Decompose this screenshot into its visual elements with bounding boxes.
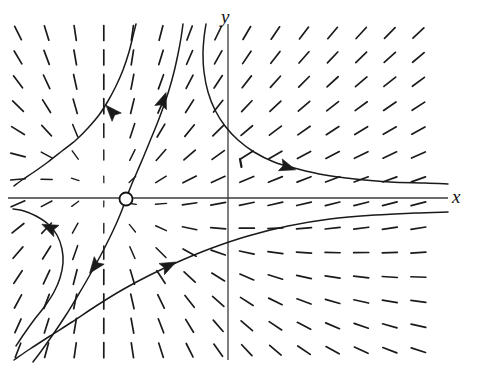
- field-segment: [43, 270, 49, 284]
- field-segment: [130, 247, 135, 259]
- field-segment: [155, 203, 166, 204]
- field-segment: [11, 201, 25, 207]
- field-segment: [186, 75, 193, 88]
- field-segment: [13, 101, 24, 111]
- field-segment: [269, 126, 281, 135]
- field-segment: [184, 150, 195, 160]
- trajectory-curve: [13, 209, 63, 346]
- field-segment: [411, 348, 425, 353]
- field-segment: [156, 149, 166, 160]
- field-segment: [42, 125, 52, 136]
- field-segment: [214, 344, 223, 356]
- field-segment: [187, 51, 193, 65]
- field-segment: [15, 319, 21, 333]
- field-segment: [242, 76, 251, 88]
- field-segment: [385, 28, 396, 39]
- field-segment: [187, 26, 192, 40]
- field-segment: [12, 127, 25, 135]
- field-segment: [213, 320, 223, 331]
- field-segment: [211, 250, 225, 255]
- arrowhead-shape: [159, 256, 179, 274]
- field-segment: [355, 127, 368, 135]
- field-segment: [270, 101, 281, 111]
- field-segment: [354, 276, 369, 278]
- field-segment: [185, 125, 195, 137]
- field-segment: [268, 177, 282, 183]
- field-segment: [270, 76, 280, 87]
- field-segment: [131, 294, 134, 309]
- field-segment: [299, 77, 310, 88]
- slope-field-group: [11, 26, 426, 358]
- field-segment: [269, 151, 282, 159]
- field-segment: [383, 348, 397, 353]
- field-segment: [326, 347, 339, 354]
- field-segment: [411, 324, 426, 327]
- field-segment: [242, 101, 252, 112]
- field-segment: [72, 201, 79, 206]
- field-segment: [383, 324, 397, 328]
- phase-portrait-canvas: [0, 0, 479, 380]
- field-segment: [243, 27, 251, 40]
- field-segment: [43, 246, 51, 259]
- field-segment: [156, 176, 166, 182]
- field-segment: [411, 202, 426, 206]
- field-segment: [297, 322, 310, 329]
- field-segment: [186, 344, 193, 357]
- field-segment: [211, 176, 225, 182]
- field-segment: [326, 323, 340, 329]
- direction-arrowhead: [278, 159, 297, 176]
- field-segment: [411, 252, 426, 253]
- field-segment: [268, 202, 283, 205]
- field-segment: [297, 252, 312, 253]
- field-segment: [243, 51, 251, 63]
- field-segment: [268, 252, 283, 254]
- field-segment: [298, 126, 310, 135]
- field-segment: [131, 74, 134, 89]
- field-segment: [354, 227, 369, 229]
- field-segment: [411, 177, 425, 182]
- field-segment: [384, 77, 396, 86]
- field-segment: [44, 50, 49, 64]
- field-segment: [186, 319, 194, 332]
- equilibrium-marker-group: [120, 193, 133, 206]
- field-segment: [239, 251, 254, 254]
- field-segment: [14, 51, 22, 64]
- equilibrium-open-circle: [120, 193, 133, 206]
- field-segment: [158, 75, 163, 89]
- y-axis-label: y: [221, 6, 229, 28]
- field-segment: [182, 227, 196, 230]
- field-segment: [297, 202, 312, 205]
- field-segment: [130, 123, 135, 137]
- field-segment: [156, 248, 166, 258]
- field-segment: [15, 26, 22, 39]
- field-segment: [129, 224, 135, 232]
- field-segment: [297, 177, 311, 182]
- field-segment: [213, 125, 224, 136]
- field-segment: [72, 151, 78, 159]
- field-segment: [271, 51, 280, 63]
- field-segment: [156, 226, 167, 231]
- field-segment: [131, 318, 134, 333]
- field-segment: [298, 101, 309, 111]
- field-segment: [325, 299, 339, 303]
- field-segment: [11, 153, 25, 157]
- field-segment: [130, 270, 134, 284]
- field-segment: [43, 75, 49, 89]
- field-segment: [298, 346, 310, 354]
- arrowhead-shape: [278, 159, 297, 176]
- arrowhead-shape: [155, 90, 172, 109]
- field-segment: [211, 202, 226, 205]
- field-segment: [383, 127, 396, 134]
- field-segment: [355, 77, 366, 87]
- field-segment: [383, 202, 398, 206]
- field-segment: [240, 274, 254, 280]
- field-segment: [12, 224, 24, 233]
- direction-arrow-group: [39, 90, 297, 276]
- field-segment: [72, 223, 78, 233]
- field-segment: [74, 26, 76, 41]
- field-segment: [413, 28, 424, 38]
- field-segment: [269, 298, 283, 305]
- field-segment: [241, 321, 252, 331]
- field-segment: [183, 176, 196, 183]
- field-segment: [412, 77, 424, 86]
